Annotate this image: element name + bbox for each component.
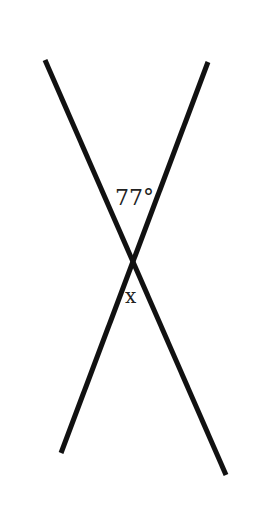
unknown-angle-label: x xyxy=(125,284,137,308)
intersecting-lines-diagram: 77° x xyxy=(0,0,269,507)
given-angle-label: 77° xyxy=(115,185,154,210)
line-a xyxy=(45,60,226,475)
line-b xyxy=(61,62,208,453)
